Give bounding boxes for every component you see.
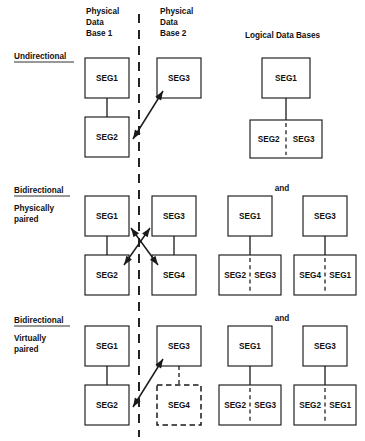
segment-box-phys1-seg1: SEG1: [85, 326, 129, 366]
segment-box-label-right: SEG1: [329, 401, 351, 410]
column-header-line: Data: [160, 18, 178, 27]
segment-box-logical-a-seg1: SEG1: [228, 196, 272, 236]
segment-box-logical-b-pair: SEG4SEG1: [294, 255, 356, 295]
segment-box-label: SEG3: [314, 212, 336, 221]
segment-box-label: SEG4: [163, 271, 185, 280]
segment-box-logical-a-pair: SEG2SEG3: [219, 255, 281, 295]
segment-box-label: SEG3: [314, 342, 336, 351]
segment-box-label-left: SEG2: [224, 271, 246, 280]
pointer-head-backward: [142, 228, 150, 237]
segment-box-logical-b-seg3: SEG3: [303, 196, 347, 236]
segment-box-label-right: SEG3: [254, 271, 276, 280]
segment-box-phys2-seg3: SEG3: [157, 326, 201, 366]
segment-box-label-left: SEG2: [299, 401, 321, 410]
segment-box-label: SEG1: [96, 74, 118, 83]
segment-box-label: SEG1: [96, 342, 118, 351]
and-connector: and: [275, 314, 290, 323]
segment-box-logical-seg2-seg3: SEG2SEG3: [250, 120, 322, 158]
segment-box-phys2-seg4: SEG4: [152, 255, 196, 295]
segment-box-label: SEG3: [168, 74, 190, 83]
segment-box-label-right: SEG3: [293, 135, 315, 144]
segment-box-label: SEG2: [96, 401, 118, 410]
segment-box-label: SEG1: [239, 342, 261, 351]
segment-box-phys2-seg4-virtual: SEG4: [157, 385, 201, 425]
column-header-line: Physical: [160, 7, 193, 16]
row-subtitle-line: Physically: [14, 204, 55, 213]
segment-box-label: SEG2: [96, 271, 118, 280]
segment-box-logical-b-seg3: SEG3: [303, 326, 347, 366]
segment-box-label-right: SEG1: [329, 271, 351, 280]
row-title: Undirectional: [14, 52, 66, 61]
column-header-line: Logical Data Bases: [245, 31, 321, 40]
segment-box-label-right: SEG3: [254, 401, 276, 410]
column-header-line: Data: [86, 18, 104, 27]
segment-box-phys1-seg2: SEG2: [85, 117, 129, 157]
and-connector: and: [275, 184, 290, 193]
row-subtitle-line: paired: [14, 345, 39, 354]
row-title: Bidirectional: [14, 186, 64, 195]
column-header-line: Physical: [86, 7, 119, 16]
segment-box-label: SEG2: [96, 133, 118, 142]
segment-box-logical-seg1: SEG1: [262, 58, 310, 98]
segment-box-label: SEG1: [275, 74, 297, 83]
segment-box-phys1-seg2: SEG2: [85, 255, 129, 295]
segment-box-logical-a-pair: SEG2SEG3: [219, 385, 281, 425]
segment-box-logical-a-seg1: SEG1: [228, 326, 272, 366]
column-header-logical-dbs: Logical Data Bases: [245, 31, 321, 40]
segment-box-label-left: SEG2: [224, 401, 246, 410]
segment-box-label-left: SEG2: [258, 135, 280, 144]
pointer-head-backward: [131, 228, 139, 237]
column-header-physical-db-2: PhysicalDataBase 2: [160, 7, 193, 38]
segment-box-phys2-seg3: SEG3: [152, 196, 196, 236]
segment-box-label: SEG3: [168, 342, 190, 351]
segment-box-label: SEG4: [168, 401, 190, 410]
segment-box-label: SEG1: [96, 212, 118, 221]
column-header-physical-db-1: PhysicalDataBase 1: [86, 7, 119, 38]
pointer-arrow-seg2-seg3: [133, 91, 163, 139]
row-title: Bidirectional: [14, 316, 64, 325]
segment-pairing-diagram: PhysicalDataBase 1PhysicalDataBase 2Logi…: [0, 0, 365, 441]
segment-box-phys1-seg1: SEG1: [85, 196, 129, 236]
segment-box-label: SEG3: [163, 212, 185, 221]
segment-box-logical-b-pair: SEG2SEG1: [294, 385, 356, 425]
row-bidirectional-physically-paired: BidirectionalPhysicallypairedandSEG1SEG2…: [14, 184, 356, 295]
segment-box-phys1-seg1: SEG1: [85, 58, 129, 98]
diagram-canvas: PhysicalDataBase 1PhysicalDataBase 2Logi…: [0, 0, 365, 441]
segment-box-phys2-seg3: SEG3: [157, 58, 201, 98]
row-bidirectional-virtually-paired: BidirectionalVirtuallypairedandSEG1SEG2S…: [14, 314, 356, 425]
segment-box-label-left: SEG4: [299, 271, 321, 280]
segment-box-phys1-seg2: SEG2: [85, 385, 129, 425]
row-subtitle-line: paired: [14, 215, 39, 224]
segment-box-label: SEG1: [239, 212, 261, 221]
column-header-line: Base 1: [86, 29, 113, 38]
row-subtitle-line: Virtually: [14, 334, 47, 343]
column-header-line: Base 2: [160, 29, 187, 38]
row-undirectional: UndirectionalSEG1SEG2SEG3SEG1SEG2SEG3: [14, 52, 322, 158]
